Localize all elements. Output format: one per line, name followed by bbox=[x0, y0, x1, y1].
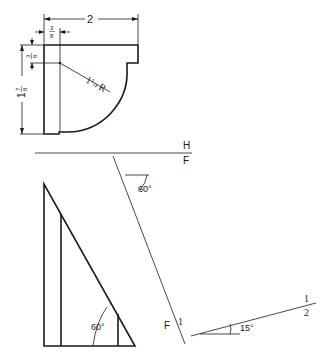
radius-label: 11/4R bbox=[84, 74, 108, 94]
angle-arc-15 bbox=[230, 324, 231, 334]
svg-text:7: 7 bbox=[15, 87, 21, 91]
label-2-lower: 2 bbox=[304, 307, 309, 318]
arrow-thick-bottom bbox=[30, 63, 34, 68]
arrow-height-top bbox=[20, 45, 24, 51]
svg-text:8: 8 bbox=[32, 54, 38, 58]
bracket-view: 11/4R 2 3 8 3 8 1 bbox=[15, 13, 138, 134]
reference-line-12: 15° 1 2 bbox=[191, 293, 316, 336]
height-dim-label: 1 7 8 bbox=[15, 86, 28, 98]
label-1: 1 bbox=[178, 316, 183, 327]
arrow-right bbox=[132, 17, 138, 21]
label-f1: F bbox=[164, 320, 170, 331]
svg-text:8: 8 bbox=[22, 87, 28, 91]
thickness-dim-label: 3 8 bbox=[25, 53, 38, 59]
width-dim-label: 2 bbox=[87, 13, 93, 25]
arrow-flange-right bbox=[60, 30, 65, 34]
svg-text:1: 1 bbox=[16, 92, 27, 98]
arrow-thick-top bbox=[30, 40, 34, 45]
reference-line-hf: H F bbox=[35, 140, 192, 166]
label-f: F bbox=[183, 155, 189, 166]
arrow-left bbox=[44, 17, 50, 21]
svg-text:3: 3 bbox=[25, 54, 31, 58]
triangle-outline bbox=[44, 184, 135, 346]
triangle-view: 60° bbox=[44, 184, 135, 346]
arrow-height-bottom bbox=[20, 128, 24, 134]
bracket-outline bbox=[44, 45, 138, 134]
arrow-flange-left bbox=[39, 30, 44, 34]
drawing-canvas: 11/4R 2 3 8 3 8 1 bbox=[0, 0, 329, 360]
angle-label-15: 15° bbox=[240, 323, 254, 333]
label-1-upper: 1 bbox=[304, 293, 309, 304]
auxiliary-line: 60° F 1 bbox=[113, 156, 185, 344]
center-point bbox=[59, 62, 61, 64]
triangle-angle-label: 60° bbox=[91, 322, 105, 332]
flange-dim-num: 3 bbox=[50, 25, 54, 31]
angle-label-60: 60° bbox=[138, 184, 152, 194]
label-h: H bbox=[183, 140, 190, 151]
flange-dim-den: 8 bbox=[50, 33, 54, 39]
